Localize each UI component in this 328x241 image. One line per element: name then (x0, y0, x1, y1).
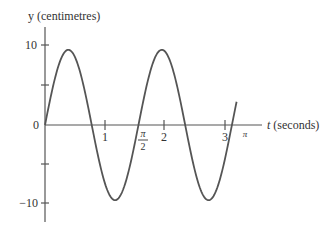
x-label-2: 2 (161, 130, 167, 144)
x-label-pi: π (243, 129, 248, 139)
y-axis-label: y (centimetres) (28, 9, 100, 23)
y-label-0: 0 (33, 118, 39, 132)
x-label-1: 1 (102, 130, 108, 144)
x-label-pi-over-2: π 2 (138, 128, 148, 152)
y-label-10: 10 (25, 38, 37, 52)
x-axis-unit: (seconds) (273, 118, 319, 132)
x-axis-label: t (seconds) (267, 118, 319, 132)
y-label-neg10: −10 (19, 196, 38, 210)
pi-over-2-denominator: 2 (141, 141, 146, 152)
x-axis-var: t (267, 118, 271, 132)
sine-wave-chart: y (centimetres) 10 0 −10 1 π 2 2 3 π t (… (0, 0, 328, 241)
pi-over-2-numerator: π (140, 128, 146, 139)
x-label-3: 3 (222, 130, 228, 144)
